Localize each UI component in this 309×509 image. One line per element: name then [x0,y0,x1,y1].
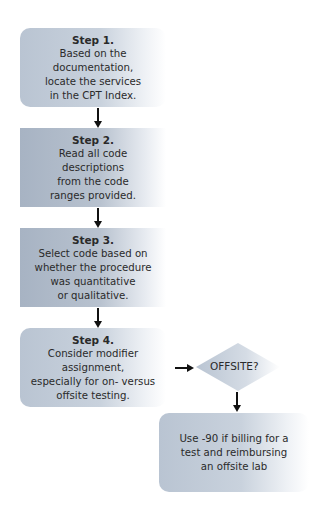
step-3-line-1: Select code based on [38,247,147,261]
step-2-line-4: ranges provided. [50,189,136,203]
arrow-down-icon [97,208,99,222]
step-4-line-3: especially for on- versus [31,375,155,389]
step-3-line-4: or qualitative. [57,289,128,303]
step-4-line-4: offsite testing. [56,389,129,403]
step-3-box: Step 3. Select code based on whether the… [20,228,166,307]
step-4-title: Step 4. [72,333,114,347]
outcome-line-2: test and reimbursing [181,446,287,460]
step-2-line-2: descriptions [62,161,124,175]
step-1-line-3: locate the services [45,75,141,89]
arrow-right-icon [175,367,188,369]
step-4-line-2: assignment, [62,361,125,375]
step-1-line-4: in the CPT Index. [50,89,136,103]
step-1-line-2: documentation, [53,61,133,75]
arrow-down-icon [236,392,238,406]
decision-label: OFFSITE? [210,360,259,372]
step-2-box: Step 2. Read all code descriptions from … [20,128,166,207]
outcome-box: Use -90 if billing for a test and reimbu… [159,413,309,492]
step-2-title: Step 2. [72,133,114,147]
outcome-line-1: Use -90 if billing for a [179,432,288,446]
step-4-box: Step 4. Consider modifier assignment, es… [20,328,166,407]
step-2-line-1: Read all code [59,147,128,161]
outcome-line-3: an offsite lab [201,460,267,474]
step-3-line-3: was quantitative [51,275,136,289]
step-1-box: Step 1. Based on the documentation, loca… [20,28,166,107]
step-3-line-2: whether the procedure [35,261,152,275]
step-1-title: Step 1. [72,33,114,47]
step-2-line-3: from the code [57,175,128,189]
arrow-down-icon [97,108,99,122]
step-1-line-1: Based on the [59,47,126,61]
arrow-down-icon [97,308,99,322]
step-3-title: Step 3. [72,233,114,247]
step-4-line-1: Consider modifier [48,347,138,361]
